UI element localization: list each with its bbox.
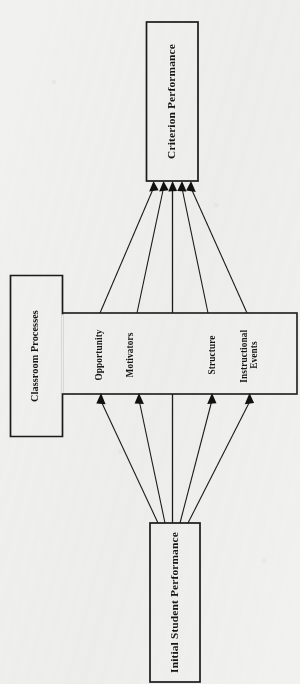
connector-structure-to-criterion (182, 188, 208, 313)
diagram-canvas: Criterion Performance Opportunity Motiva… (0, 0, 300, 684)
connector-motivators-to-criterion (137, 188, 164, 313)
label-band-structure: Structure (207, 336, 217, 375)
connector-initial-to-motivators (140, 402, 166, 523)
model-diagram: Criterion Performance Opportunity Motiva… (0, 0, 300, 684)
upper-connector-group (100, 188, 247, 313)
lower-connector-group (96, 393, 254, 523)
label-instructional-events-line1: Instructional (239, 329, 249, 382)
connector-initial-to-opportunity (102, 402, 159, 523)
label-band-opportunity: Opportunity (94, 329, 104, 380)
label-band-motivators: Motivators (125, 332, 135, 377)
arrowhead-into-criterion-2 (159, 181, 168, 192)
criterion-arrowheads (149, 181, 196, 192)
arrowhead-into-criterion-5 (186, 181, 196, 192)
arrowhead-into-criterion-3 (168, 181, 177, 192)
label-instructional-events-line2: Events (250, 341, 260, 369)
connector-opportunity-to-criterion (100, 188, 154, 313)
connector-initial-to-structure (180, 402, 212, 523)
arrowhead-into-criterion-1 (149, 181, 158, 192)
arrowhead-into-criterion-4 (177, 181, 186, 192)
label-initial-student-performance: Initial Student Performance (168, 532, 180, 673)
connector-instructional-events-to-criterion (191, 188, 247, 313)
connector-initial-to-instructional-events (188, 402, 250, 523)
label-criterion-performance: Criterion Performance (165, 44, 177, 159)
label-classroom-processes: Classroom Processes (29, 310, 40, 402)
